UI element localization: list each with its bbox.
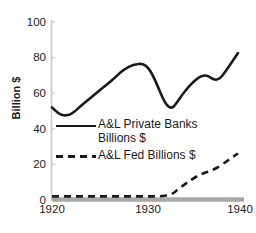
x-tick-label: 1920 bbox=[39, 203, 65, 215]
legend-entry-private-banks: A&L Private Banks Billions $ bbox=[54, 118, 254, 145]
x-axis-tick-labels: 1920 1930 1940 bbox=[48, 203, 248, 223]
legend-key-solid-line-icon bbox=[54, 119, 98, 133]
chart-legend: A&L Private Banks Billions $ A&L Fed Bil… bbox=[54, 118, 254, 165]
legend-entry-fed: A&L Fed Billions $ bbox=[54, 149, 254, 164]
line-chart: Billion $ 100 80 60 40 20 0 A&L Private bbox=[0, 0, 256, 233]
x-tick-label: 1940 bbox=[227, 203, 253, 215]
series-line-private-banks bbox=[52, 53, 238, 115]
legend-key-dashed-line-icon bbox=[54, 150, 98, 164]
x-tick-label: 1930 bbox=[135, 203, 161, 215]
legend-label: A&L Fed Billions $ bbox=[98, 149, 196, 163]
legend-label: A&L Private Banks Billions $ bbox=[98, 118, 198, 145]
